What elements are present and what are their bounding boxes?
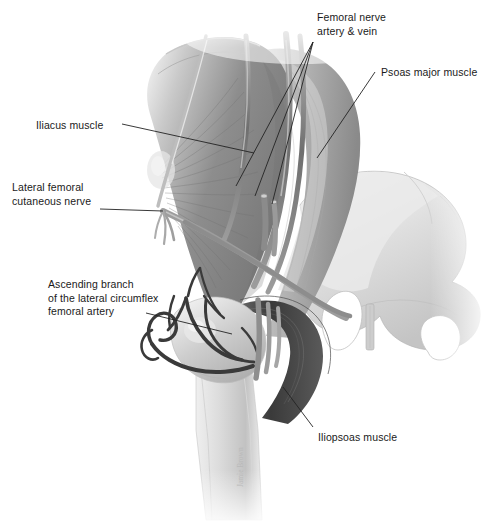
- label-femoral-nerve-artery-vein: Femoral nerve artery & vein: [317, 11, 386, 38]
- illustration-canvas: Jamie Brown Femoral nerve artery & vein …: [0, 0, 492, 530]
- anatomy-illustration: Jamie Brown: [0, 0, 492, 530]
- label-lateral-femoral-cutaneous-nerve: Lateral femoral cutaneous nerve: [12, 181, 91, 208]
- label-iliacus-muscle: Iliacus muscle: [36, 119, 103, 133]
- leader-lfcn: [100, 209, 163, 211]
- label-ascending-branch-lateral-circumflex-femoral-artery: Ascending branch of the lateral circumfl…: [48, 278, 158, 319]
- pubic-symphysis: [366, 304, 374, 350]
- artist-signature: Jamie Brown: [236, 447, 245, 487]
- label-iliopsoas-muscle: Iliopsoas muscle: [318, 431, 397, 445]
- label-psoas-major-muscle: Psoas major muscle: [381, 66, 477, 80]
